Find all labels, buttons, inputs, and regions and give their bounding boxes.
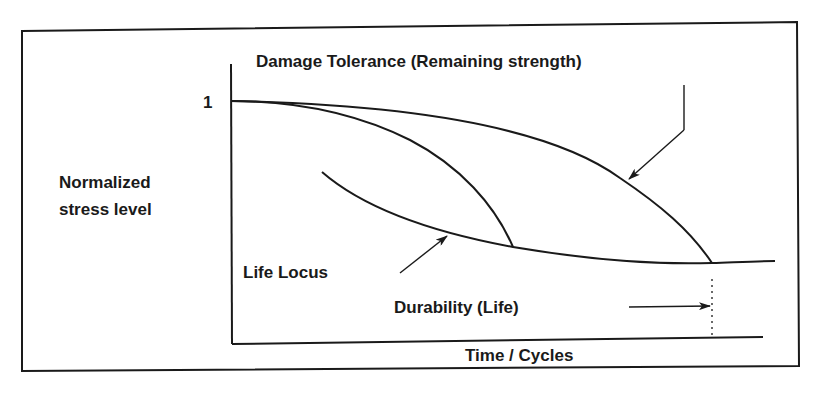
- durability-arrow: [629, 306, 710, 307]
- figure-frame: [22, 22, 799, 371]
- life-locus-arrow: [400, 236, 447, 273]
- y-tick-label: 1: [203, 93, 212, 112]
- y-axis-label-line2: stress level: [59, 200, 152, 219]
- x-axis: [232, 337, 763, 344]
- durability-label: Durability (Life): [394, 298, 519, 317]
- life-locus-curve: [322, 172, 775, 263]
- x-axis-label: Time / Cycles: [465, 346, 573, 365]
- y-axis: [231, 64, 232, 344]
- damage-tolerance-label: Damage Tolerance (Remaining strength): [256, 52, 582, 71]
- y-axis-label-line1: Normalized: [59, 173, 151, 192]
- damage-tolerance-arrow: [629, 130, 684, 179]
- life-locus-label: Life Locus: [243, 263, 328, 282]
- damage-tolerance-diagram: 1 Normalized stress level Time / Cycles …: [0, 0, 830, 402]
